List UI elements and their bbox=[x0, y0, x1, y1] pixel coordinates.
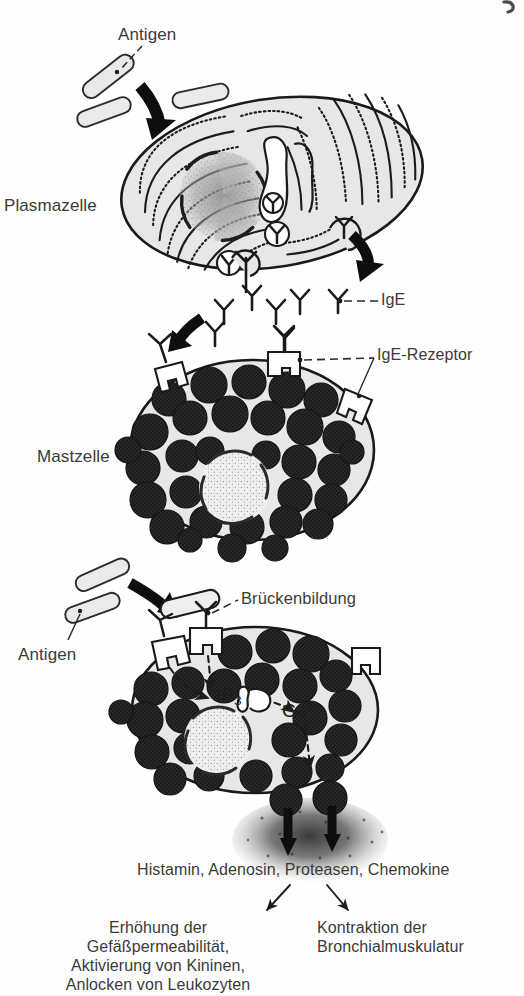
antigen-particle-group-bottom bbox=[63, 556, 132, 640]
label-ige: IgE bbox=[381, 291, 405, 310]
activated-mast-cell-nucleus bbox=[184, 706, 252, 775]
stage-plasma-cell bbox=[75, 46, 435, 292]
ip3-receptor-channel bbox=[238, 687, 271, 712]
mast-cell-activation-diagram bbox=[0, 0, 524, 996]
arrow-to-vascular-effects bbox=[267, 885, 290, 910]
label-effect-bronchial: Kontraktion der Bronchialmuskulatur bbox=[317, 919, 517, 957]
label-plasmazelle: Plasmazelle bbox=[4, 196, 97, 216]
ip3-base: IP bbox=[216, 684, 234, 705]
page-edge-glyph bbox=[504, 2, 513, 12]
vesicle-antibody-1 bbox=[263, 193, 283, 213]
label-mediators: Histamin, Adenosin, Proteasen, Chemokine bbox=[137, 861, 450, 880]
ige-antibody bbox=[215, 300, 233, 324]
stage-mast-cell-sensitized bbox=[115, 326, 374, 562]
label-brueckenbildung: Brückenbildung bbox=[241, 589, 356, 608]
arrow-to-bronchial-effects bbox=[327, 885, 348, 910]
ige-antibody bbox=[243, 286, 261, 310]
label-antigen-bottom: Antigen bbox=[18, 645, 76, 665]
calcium-base: Ca bbox=[282, 700, 306, 721]
label-antigen-top: Antigen bbox=[118, 25, 176, 45]
vesicle-antibody-2 bbox=[265, 222, 289, 246]
free-ige-antibody-group bbox=[206, 286, 347, 352]
label-ige-rezeptor: IgE-Rezeptor bbox=[377, 346, 472, 365]
outcome-arrows bbox=[267, 885, 348, 910]
ige-receptor bbox=[268, 326, 300, 376]
figure-page: Antigen Plasmazelle IgE IgE-Rezeptor Mas… bbox=[0, 0, 524, 996]
ige-antibody bbox=[206, 322, 224, 346]
label-mastzelle: Mastzelle bbox=[37, 447, 110, 467]
mast-cell-nucleus bbox=[199, 451, 271, 524]
label-calcium: Ca2+ bbox=[282, 699, 322, 722]
ige-antibody bbox=[291, 290, 309, 314]
label-effect-vascular: Erhöhung der Gefäßpermeabilität, Aktivie… bbox=[28, 919, 288, 995]
calcium-superscript: 2+ bbox=[306, 699, 322, 714]
ige-receptor bbox=[352, 648, 380, 674]
ige-antibody bbox=[267, 300, 285, 324]
label-ip3: IP3 bbox=[216, 684, 242, 708]
ip3-subscript: 3 bbox=[234, 693, 242, 708]
ige-leader bbox=[338, 299, 378, 304]
